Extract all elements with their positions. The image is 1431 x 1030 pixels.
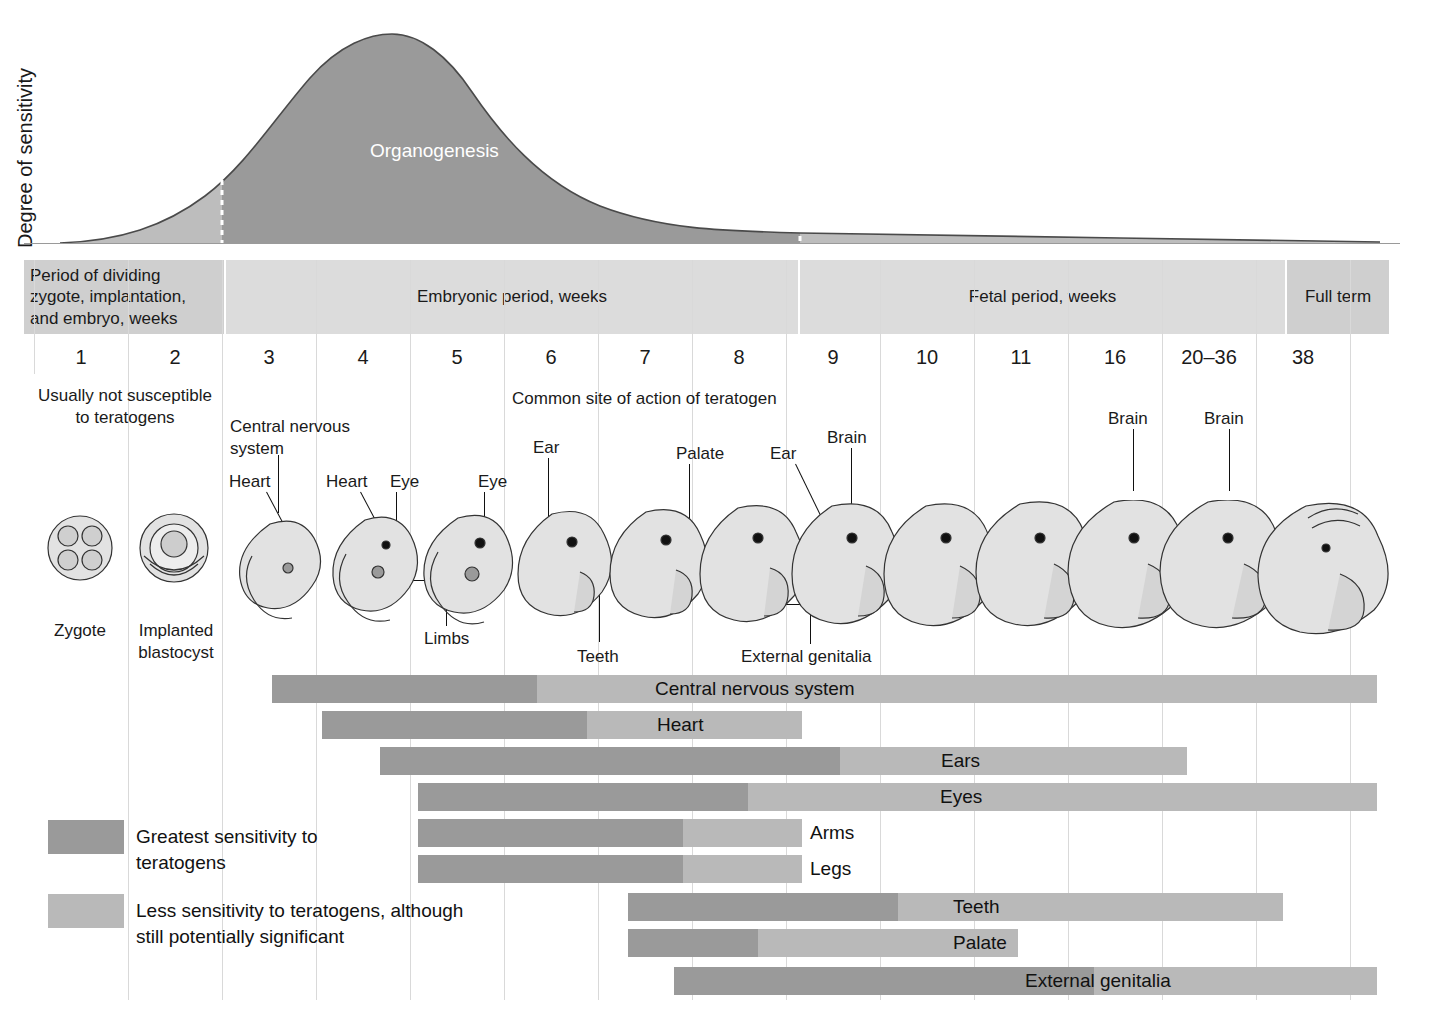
callout-teeth: Teeth [577, 646, 619, 668]
bar-segment-high-heart [322, 711, 587, 739]
bar-row-ears: Ears [0, 747, 1431, 775]
period-band-fullterm-label: Full term [1299, 286, 1377, 307]
bar-segment-low-arms [683, 819, 802, 847]
period-band-fetal: Fetal period, weeks [800, 260, 1285, 334]
bar-segment-low-ears [840, 747, 1187, 775]
bar-segment-high-teeth [628, 893, 898, 921]
bar-label-palate: Palate [953, 929, 1007, 957]
bar-label-heart: Heart [657, 711, 703, 739]
bar-label-teeth: Teeth [953, 893, 999, 921]
bar-segment-low-legs [683, 855, 802, 883]
callout-brain-w16: Brain [1108, 408, 1148, 430]
bar-segment-high-arms [418, 819, 683, 847]
legend-swatch-greatest [48, 820, 124, 854]
bar-label-ears: Ears [941, 747, 980, 775]
bar-segment-high-palate [628, 929, 758, 957]
organogenesis-label: Organogenesis [370, 140, 499, 162]
bar-segment-high-ears [380, 747, 840, 775]
week-number-2036: 20–36 [1162, 340, 1256, 374]
bar-label-eyes: Eyes [940, 783, 982, 811]
callout-eye-w4: Eye [390, 471, 419, 493]
embryo-week-3 [240, 521, 321, 619]
week-number-16: 16 [1068, 340, 1162, 374]
legend-swatch-less [48, 894, 124, 928]
period-band-dividing: Period of dividing zygote, implantation,… [24, 260, 224, 334]
bar-label-external-genitalia: External genitalia [1025, 967, 1171, 995]
week-number-11: 11 [974, 340, 1068, 374]
blastocyst-icon [140, 514, 208, 582]
bar-row-external-genitalia: External genitalia [0, 967, 1431, 995]
teratogen-action-note: Common site of action of teratogen [512, 388, 777, 410]
week-number-3: 3 [222, 340, 316, 374]
week-number-9: 9 [786, 340, 880, 374]
callout-ear-w8: Ear [770, 443, 796, 465]
callout-heart-w3: Heart [229, 471, 271, 493]
callout-external-genitalia: External genitalia [741, 646, 871, 668]
callout-ear-w6: Ear [533, 437, 559, 459]
bar-row-eyes: Eyes [0, 783, 1431, 811]
callout-palate-w7: Palate [676, 443, 724, 465]
newborn-week-38 [1258, 503, 1388, 633]
legend-label-greatest: Greatest sensitivity to teratogens [136, 824, 366, 875]
callout-eye-w5: Eye [478, 471, 507, 493]
embryo-week-6 [518, 512, 612, 616]
bar-label-central-nervous-system: Central nervous system [655, 675, 855, 703]
callout-heart-w4: Heart [326, 471, 368, 493]
period-band-embryonic-label: Embryonic period, weeks [411, 286, 613, 307]
embryo-week-7 [610, 510, 708, 618]
week-number-2: 2 [128, 340, 222, 374]
legend-label-less: Less sensitivity to teratogens, although… [136, 898, 466, 949]
bar-row-heart: Heart [0, 711, 1431, 739]
week-number-6: 6 [504, 340, 598, 374]
period-band-dividing-label: Period of dividing zygote, implantation,… [24, 265, 224, 329]
period-band-fullterm: Full term [1287, 260, 1389, 334]
week-number-1: 1 [34, 340, 128, 374]
embryo-week-5 [424, 515, 513, 624]
teratogen-sensitivity-figure: Degree of sensitivity Organogenesis Peri… [0, 0, 1431, 1030]
bar-segment-high-eyes [418, 783, 748, 811]
week-number-4: 4 [316, 340, 410, 374]
week-number-10: 10 [880, 340, 974, 374]
embryo-week-4 [333, 517, 418, 621]
period-band-embryonic: Embryonic period, weeks [226, 260, 798, 334]
week-number-7: 7 [598, 340, 692, 374]
bar-segment-high-central-nervous-system [272, 675, 537, 703]
period-band-fetal-label: Fetal period, weeks [963, 286, 1122, 307]
callout-central-nervous-system: Central nervous system [230, 416, 350, 460]
week-number-5: 5 [410, 340, 504, 374]
bar-label-arms: Arms [810, 819, 854, 847]
left-note: Usually not susceptible to teratogens [32, 385, 218, 429]
callout-brain-w9: Brain [827, 427, 867, 449]
leader-brain-w20 [1229, 429, 1230, 491]
week-number-38: 38 [1256, 340, 1350, 374]
sensitivity-curve [0, 0, 1431, 252]
zygote-icon [48, 516, 112, 580]
bar-row-central-nervous-system: Central nervous system [0, 675, 1431, 703]
week-number-8: 8 [692, 340, 786, 374]
bar-segment-low-eyes [748, 783, 1377, 811]
bar-label-legs: Legs [810, 855, 851, 883]
leader-brain-w16 [1133, 429, 1134, 491]
embryo-illustration-row [20, 500, 1420, 640]
bar-segment-high-legs [418, 855, 683, 883]
callout-brain-w20: Brain [1204, 408, 1244, 430]
embryo-week-8 [700, 506, 805, 622]
